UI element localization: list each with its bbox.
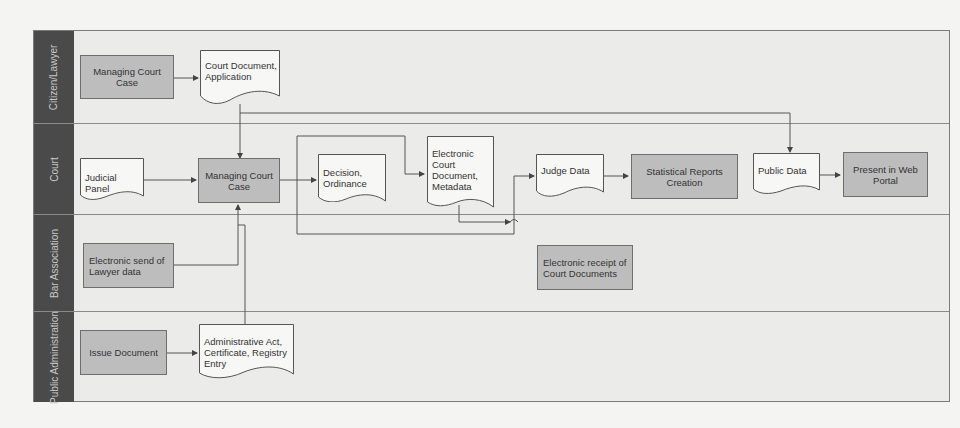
document-decision-ordinance[interactable]: Decision, Ordinance — [318, 154, 386, 202]
document-shape-icon — [536, 154, 604, 198]
lane-header: Public Administration — [34, 312, 74, 402]
node-label: Managing Court Case — [203, 170, 275, 192]
process-managing-court-case-citizen[interactable]: Managing Court Case — [80, 55, 174, 99]
process-present-in-web-portal[interactable]: Present in Web Portal — [843, 152, 928, 197]
process-issue-document[interactable]: Issue Document — [80, 330, 167, 375]
lane-label: Court — [48, 157, 59, 181]
document-electronic-court-document[interactable]: Electronic Court Document, Metadata — [427, 136, 494, 208]
document-judicial-panel[interactable]: Judicial Panel — [80, 158, 144, 200]
node-label: Statistical Reports Creation — [636, 166, 733, 188]
document-judge-data[interactable]: Judge Data — [536, 154, 604, 198]
node-label: Electronic receipt of Court Documents — [543, 257, 628, 279]
node-label: Public Data — [758, 165, 817, 176]
document-public-data[interactable]: Public Data — [753, 153, 820, 195]
node-label: Managing Court Case — [85, 66, 169, 88]
node-label: Administrative Act, Certificate, Registr… — [204, 336, 291, 369]
lane-label: Public Administration — [49, 311, 60, 404]
document-administrative-act[interactable]: Administrative Act, Certificate, Registr… — [199, 324, 294, 382]
lane-header: Court — [34, 124, 74, 214]
node-label: Judge Data — [541, 165, 601, 176]
node-label: Issue Document — [89, 347, 158, 358]
node-label: Electronic send of Lawyer data — [89, 255, 169, 277]
node-label: Court Document, Application — [205, 60, 277, 82]
document-court-document-application[interactable]: Court Document, Application — [200, 50, 280, 106]
node-label: Judicial Panel — [85, 172, 141, 194]
lane-header: Citizen/Lawyer — [34, 31, 74, 123]
lane-public-administration: Public Administration — [34, 312, 949, 402]
lane-label: Citizen/Lawyer — [49, 44, 60, 110]
lane-header: Bar Association — [34, 215, 74, 311]
process-electronic-send-lawyer-data[interactable]: Electronic send of Lawyer data — [83, 243, 174, 288]
process-electronic-receipt-court-documents[interactable]: Electronic receipt of Court Documents — [537, 245, 633, 290]
node-label: Electronic Court Document, Metadata — [432, 148, 491, 192]
process-statistical-reports-creation[interactable]: Statistical Reports Creation — [631, 154, 738, 199]
node-label: Present in Web Portal — [848, 164, 923, 186]
lane-label: Bar Association — [49, 229, 60, 298]
node-label: Decision, Ordinance — [323, 167, 383, 189]
process-managing-court-case-court[interactable]: Managing Court Case — [198, 158, 280, 203]
